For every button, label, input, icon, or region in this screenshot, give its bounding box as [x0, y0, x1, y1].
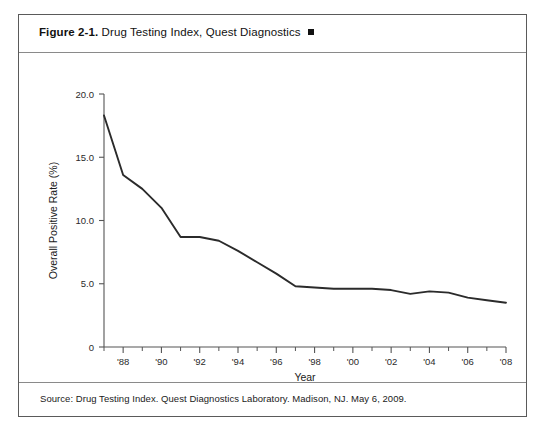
x-tick-label: '06	[462, 356, 474, 367]
y-tick-label: 15.0	[76, 152, 95, 163]
y-axis-tick-labels: 05.010.015.020.0	[76, 89, 95, 353]
figure-source-text: Source: Drug Testing Index. Quest Diagno…	[40, 393, 407, 404]
figure-container: Figure 2-1. Drug Testing Index, Quest Di…	[18, 14, 527, 417]
y-tick-label: 20.0	[76, 89, 95, 100]
figure-number: Figure 2-1.	[39, 26, 98, 38]
x-tick-label: '00	[347, 356, 359, 367]
figure-caption-bar: Figure 2-1. Drug Testing Index, Quest Di…	[19, 15, 526, 53]
x-tick-label: '88	[117, 356, 129, 367]
x-tick-label: '92	[194, 356, 206, 367]
x-tick-label: '08	[500, 356, 512, 367]
x-tick-label: '94	[232, 356, 244, 367]
y-tick-label: 0	[89, 342, 94, 353]
x-tick-label: '02	[385, 356, 397, 367]
y-tick-label: 5.0	[81, 278, 94, 289]
y-tick-label: 10.0	[76, 215, 95, 226]
line-chart: 05.010.015.020.0 '88'90'92'94'96'98'00'0…	[19, 53, 526, 382]
x-axis-ticks	[104, 347, 506, 353]
x-tick-label: '04	[423, 356, 435, 367]
x-tick-label: '90	[155, 356, 167, 367]
square-marker-icon	[308, 29, 314, 35]
chart-plot-area: 05.010.015.020.0 '88'90'92'94'96'98'00'0…	[19, 53, 526, 382]
data-series-line	[104, 116, 506, 303]
x-axis-title: Year	[294, 371, 316, 382]
x-axis-tick-labels: '88'90'92'94'96'98'00'02'04'06'08	[117, 356, 512, 367]
chart-axes	[104, 94, 506, 347]
y-axis-title: Overall Positive Rate (%)	[47, 162, 59, 279]
figure-title: Drug Testing Index, Quest Diagnostics	[102, 26, 301, 38]
x-tick-label: '96	[270, 356, 282, 367]
figure-source-bar: Source: Drug Testing Index. Quest Diagno…	[19, 382, 526, 416]
y-axis-ticks	[99, 94, 104, 347]
figure-caption: Figure 2-1. Drug Testing Index, Quest Di…	[39, 26, 314, 38]
x-tick-label: '98	[308, 356, 320, 367]
